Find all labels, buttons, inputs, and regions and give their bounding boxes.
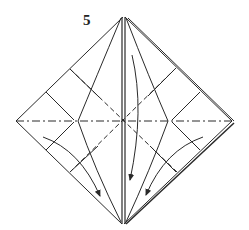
left-flap-arrow [43,137,100,196]
right-flap-arrow [146,137,203,195]
center-flap-arrow [130,55,138,180]
origami-diagram [0,0,249,230]
